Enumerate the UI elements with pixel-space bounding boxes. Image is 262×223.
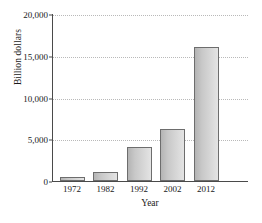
y-tick-mark-5000 (49, 140, 53, 141)
x-tick-label-1972: 1972 (63, 184, 81, 194)
x-tick-label-1982: 1982 (97, 184, 115, 194)
y-tick-mark-15000 (49, 56, 53, 57)
y-tick-mark-0 (49, 182, 53, 183)
x-tick-label-2012: 2012 (197, 184, 215, 194)
x-tick-group: 19721982199220022012 (52, 184, 248, 198)
y-tick-label-5000: 5,000 (28, 135, 48, 145)
bar-2002 (160, 129, 185, 181)
bar-chart: Billion dollars 05,00010,00015,00020,000… (0, 0, 262, 223)
x-tick-label-1992: 1992 (130, 184, 148, 194)
y-axis-title: Billion dollars (13, 0, 23, 117)
bar-group (53, 14, 248, 181)
y-tick-mark-20000 (49, 15, 53, 16)
y-tick-label-0: 0 (44, 177, 49, 187)
bar-1992 (127, 147, 152, 181)
x-tick-label-2002: 2002 (164, 184, 182, 194)
y-tick-label-20000: 20,000 (23, 10, 48, 20)
bar-1972 (60, 177, 85, 181)
bar-1982 (93, 172, 118, 181)
y-tick-mark-10000 (49, 98, 53, 99)
plot-area: 05,00010,00015,00020,000 (52, 14, 248, 182)
y-tick-label-10000: 10,000 (23, 94, 48, 104)
x-axis-title: Year (52, 198, 248, 208)
bar-2012 (194, 47, 219, 181)
y-tick-label-15000: 15,000 (23, 52, 48, 62)
